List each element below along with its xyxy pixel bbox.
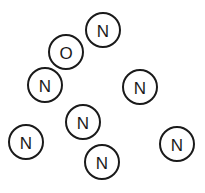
node-label: N (20, 134, 32, 153)
node-label: O (59, 44, 72, 63)
node-label: N (97, 22, 109, 41)
node-label: N (171, 136, 183, 155)
node-n: N (86, 13, 120, 47)
node-n: N (123, 70, 157, 104)
node-n: N (9, 125, 43, 159)
node-n: N (28, 68, 62, 102)
node-label: N (134, 79, 146, 98)
node-label: N (96, 154, 108, 173)
diagram-canvas: N O N N N N N N (0, 0, 205, 193)
node-n: N (66, 105, 100, 139)
node-label: N (77, 114, 89, 133)
node-n: N (160, 127, 194, 161)
node-label: N (39, 77, 51, 96)
node-n: N (85, 145, 119, 179)
node-o: O (49, 35, 83, 69)
